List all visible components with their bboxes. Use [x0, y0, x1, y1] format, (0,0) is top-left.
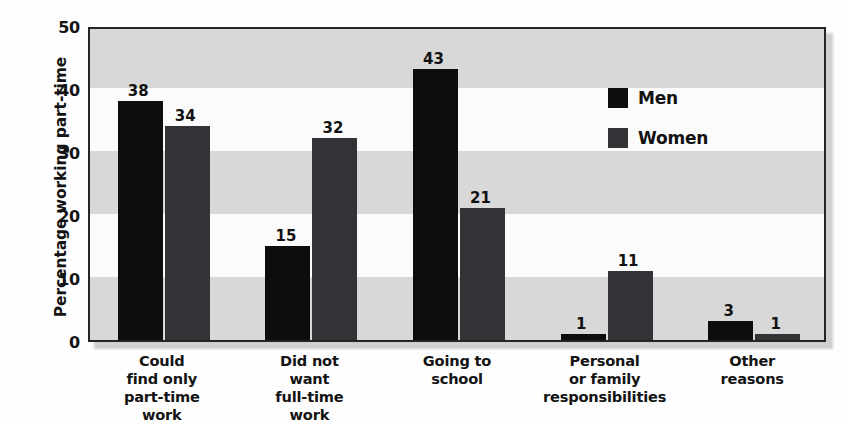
- y-axis-tick-0: 0: [40, 333, 80, 352]
- bar-value-men-group-5: 3: [723, 302, 733, 320]
- y-axis-tick-10: 10: [40, 270, 80, 289]
- x-axis-label-line: or family: [543, 370, 666, 388]
- bar-value-women-group-2: 32: [322, 119, 343, 137]
- bar-women-group-4: [608, 271, 653, 340]
- x-axis-label-line: Going to: [423, 352, 491, 370]
- y-axis-tick-20: 20: [40, 207, 80, 226]
- men-swatch: [608, 88, 628, 108]
- x-axis-label-line: find only: [124, 370, 200, 388]
- bar-value-men-group-1: 38: [128, 82, 149, 100]
- x-axis-label-line: reasons: [721, 370, 784, 388]
- bar-men-group-5: [708, 321, 753, 340]
- x-axis-label-line: work: [124, 406, 200, 424]
- bar-women-group-3: [460, 208, 505, 340]
- bar-value-women-group-5: 1: [770, 315, 780, 333]
- x-axis-baseline: [88, 340, 826, 342]
- bar-women-group-2: [312, 138, 357, 340]
- x-axis-label-line: want: [275, 370, 343, 388]
- x-axis-label-line: part-time: [124, 388, 200, 406]
- bar-women-group-1: [165, 126, 210, 340]
- y-axis-tick-30: 30: [40, 144, 80, 163]
- x-axis-label-line: Could: [124, 352, 200, 370]
- bar-value-men-group-4: 1: [576, 315, 586, 333]
- legend-item-women: Women: [608, 118, 708, 158]
- bar-men-group-2: [265, 246, 310, 341]
- bar-men-group-1: [118, 101, 163, 340]
- bar-value-women-group-1: 34: [175, 107, 196, 125]
- x-axis-label-line: Personal: [543, 352, 666, 370]
- x-axis-category-labels: Couldfind onlypart-timeworkDid notwantfu…: [0, 352, 843, 425]
- y-axis-tick-40: 40: [40, 81, 80, 100]
- legend: MenWomen: [608, 78, 708, 158]
- women-swatch: [608, 128, 628, 148]
- bars-layer: [90, 29, 824, 340]
- x-axis-label-line: school: [423, 370, 491, 388]
- x-axis-label-group-1: Couldfind onlypart-timework: [124, 352, 200, 424]
- x-axis-label-line: Other: [721, 352, 784, 370]
- x-axis-label-line: full-time: [275, 388, 343, 406]
- x-axis-label-group-2: Did notwantfull-timework: [275, 352, 343, 424]
- bar-value-men-group-2: 15: [275, 227, 296, 245]
- x-axis-label-line: Did not: [275, 352, 343, 370]
- bar-value-women-group-3: 21: [470, 189, 491, 207]
- bar-men-group-3: [413, 69, 458, 340]
- bar-value-women-group-4: 11: [618, 252, 639, 270]
- y-axis-tick-50: 50: [40, 18, 80, 37]
- legend-item-men: Men: [608, 78, 708, 118]
- bar-value-men-group-3: 43: [423, 50, 444, 68]
- legend-label-men: Men: [638, 88, 678, 108]
- x-axis-label-group-3: Going toschool: [423, 352, 491, 388]
- x-axis-label-line: responsibilities: [543, 388, 666, 406]
- bar-chart: Percentage working part-time 01020304050…: [0, 0, 843, 425]
- plot-area: [88, 27, 826, 342]
- x-axis-label-group-5: Otherreasons: [721, 352, 784, 388]
- legend-label-women: Women: [638, 128, 708, 148]
- x-axis-label-line: work: [275, 406, 343, 424]
- x-axis-label-group-4: Personalor familyresponsibilities: [543, 352, 666, 406]
